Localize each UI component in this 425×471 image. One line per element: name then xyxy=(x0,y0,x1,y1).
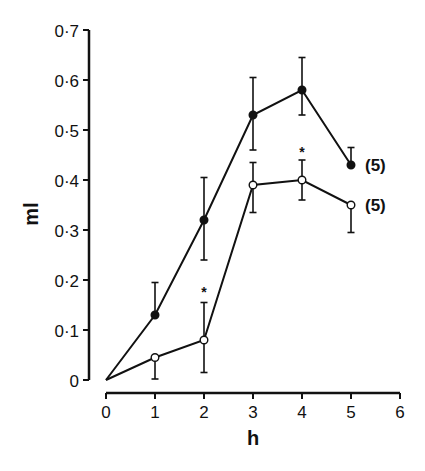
y-axis-label: ml xyxy=(20,202,42,225)
y-tick-label: 0·5 xyxy=(54,122,79,141)
y-tick-label: 0 xyxy=(70,372,79,391)
series-end-label: (5) xyxy=(365,156,386,175)
filled-circle-marker xyxy=(298,86,306,94)
filled-circle-marker xyxy=(151,311,159,319)
x-tick-label: 2 xyxy=(199,403,208,422)
series-layer: (5)(5) xyxy=(106,58,386,381)
filled-circle-marker xyxy=(347,161,355,169)
series-line xyxy=(106,90,351,380)
y-axis: 00·10·20·30·40·50·60·7 xyxy=(54,22,89,391)
filled-circle-marker xyxy=(200,216,208,224)
series-end-label: (5) xyxy=(365,196,386,215)
y-tick-label: 0·1 xyxy=(54,322,79,341)
filled-circle-marker xyxy=(249,111,257,119)
x-tick-label: 5 xyxy=(346,403,355,422)
series-line xyxy=(106,180,351,380)
x-axis: 0123456 xyxy=(101,393,404,422)
series-filled: (5) xyxy=(106,58,386,381)
x-tick-label: 1 xyxy=(150,403,159,422)
y-tick-label: 0·3 xyxy=(54,222,79,241)
x-tick-label: 3 xyxy=(248,403,257,422)
x-tick-label: 4 xyxy=(297,403,306,422)
line-chart: 00·10·20·30·40·50·60·7 0123456 ml h (5)(… xyxy=(0,0,425,471)
series-open: (5) xyxy=(106,160,386,380)
open-circle-marker xyxy=(200,336,208,344)
open-circle-marker xyxy=(347,201,355,209)
x-tick-label: 0 xyxy=(101,403,110,422)
open-circle-marker xyxy=(151,354,159,362)
y-tick-label: 0·7 xyxy=(54,22,79,41)
open-circle-marker xyxy=(298,176,306,184)
significance-asterisk: * xyxy=(299,144,305,160)
y-tick-label: 0·4 xyxy=(54,172,79,191)
x-tick-label: 6 xyxy=(395,403,404,422)
open-circle-marker xyxy=(249,181,257,189)
y-tick-label: 0·2 xyxy=(54,272,79,291)
x-axis-label: h xyxy=(247,427,259,449)
y-tick-label: 0·6 xyxy=(54,72,79,91)
significance-asterisk: * xyxy=(201,284,207,300)
